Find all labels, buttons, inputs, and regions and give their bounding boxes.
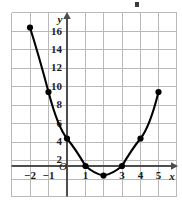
y-tick-label-16: 16 bbox=[51, 25, 63, 37]
y-tick-label-4: 4 bbox=[57, 135, 63, 147]
scan-artifact-mark bbox=[135, 2, 139, 7]
graph-figure: 16 14 12 10 8 6 4 2 −2 −1 1 3 4 5 O y x bbox=[0, 0, 182, 204]
data-point bbox=[119, 163, 125, 169]
data-point bbox=[27, 24, 33, 30]
x-tick-label-5: 5 bbox=[156, 169, 162, 181]
data-point bbox=[64, 135, 70, 141]
x-tick-label-minus1: −1 bbox=[43, 169, 55, 181]
y-tick-label-12: 12 bbox=[51, 61, 63, 73]
data-point bbox=[100, 172, 106, 178]
y-tick-label-10: 10 bbox=[51, 80, 63, 92]
data-point bbox=[137, 135, 143, 141]
x-tick-label-3: 3 bbox=[119, 169, 125, 181]
y-tick-label-8: 8 bbox=[57, 98, 63, 110]
origin-label: O bbox=[59, 160, 67, 172]
x-tick-label-1: 1 bbox=[83, 169, 89, 181]
coordinate-plane-svg: 16 14 12 10 8 6 4 2 −2 −1 1 3 4 5 O y x bbox=[0, 0, 182, 204]
x-axis-label: x bbox=[168, 170, 175, 182]
data-point bbox=[155, 89, 161, 95]
x-tick-label-minus2: −2 bbox=[24, 169, 36, 181]
data-point bbox=[82, 163, 88, 169]
y-axis-label: y bbox=[56, 13, 63, 25]
x-tick-label-4: 4 bbox=[138, 169, 144, 181]
y-tick-label-14: 14 bbox=[51, 43, 63, 55]
data-point bbox=[45, 89, 51, 95]
